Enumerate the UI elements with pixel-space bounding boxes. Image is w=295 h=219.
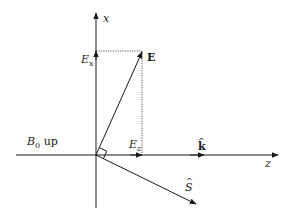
e-vector-label: E — [147, 51, 155, 64]
s-vector — [96, 155, 196, 204]
x-axis-label: x — [103, 12, 110, 25]
k-label: k — [198, 140, 206, 153]
vector-diagram: x z E Ex Ez B0 up ^ k ^ S — [0, 0, 295, 219]
s-label: S — [185, 181, 193, 194]
z-axis-label: z — [264, 157, 271, 170]
ex-label: Ex — [80, 53, 94, 68]
b0-label: B0 up — [26, 135, 58, 150]
ez-label: Ez — [128, 138, 142, 153]
